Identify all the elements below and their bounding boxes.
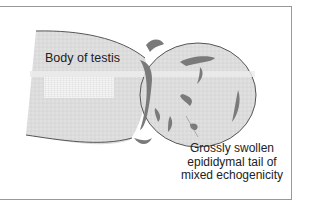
label-tail-line-1: Grossly swollen xyxy=(172,142,292,156)
label-tail-line-2: epididymal tail of xyxy=(172,156,292,170)
label-epididymal-tail: Grossly swollen epididymal tail of mixed… xyxy=(172,142,292,183)
epididymal-tail-shape xyxy=(134,40,256,147)
body-of-testis-shape xyxy=(26,31,148,144)
label-body-of-testis: Body of testis xyxy=(45,51,120,65)
label-tail-line-3: mixed echogenicity xyxy=(172,169,292,183)
